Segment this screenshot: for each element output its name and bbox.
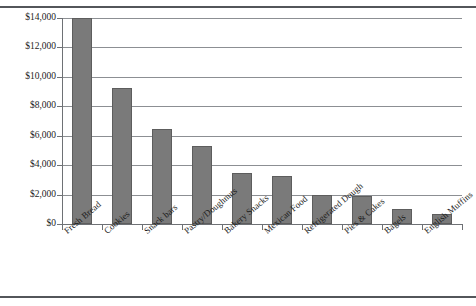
- bar-chart-figure: $0$2,000$4,000$6,000$8,000$10,000$12,000…: [0, 0, 476, 306]
- top-divider-rule: [0, 6, 476, 8]
- x-axis-tick-mark: [102, 225, 103, 230]
- y-axis-tick-mark: [57, 18, 63, 19]
- x-axis-tick-mark: [182, 225, 183, 230]
- bar: [192, 146, 213, 224]
- x-axis-tick-mark: [222, 225, 223, 230]
- bar: [392, 209, 413, 224]
- y-axis-tick-label: $10,000: [25, 72, 56, 82]
- bar: [312, 195, 333, 224]
- bar: [232, 173, 253, 225]
- x-axis-tick-mark: [382, 225, 383, 230]
- x-axis-tick-mark: [62, 225, 63, 230]
- y-axis-tick-label: $2,000: [30, 190, 56, 200]
- bottom-divider-rule: [0, 296, 476, 298]
- bar: [352, 196, 373, 224]
- y-axis-tick-mark: [57, 195, 63, 196]
- x-axis-tick-mark: [302, 225, 303, 230]
- bar: [272, 176, 293, 224]
- y-axis-tick-label: $4,000: [30, 160, 56, 170]
- y-axis-tick-label: $0: [47, 219, 57, 229]
- bar: [112, 88, 133, 224]
- bar: [72, 18, 93, 224]
- x-axis-tick-mark: [342, 225, 343, 230]
- bar: [152, 129, 173, 224]
- y-axis-tick-mark: [57, 77, 63, 78]
- bar: [432, 214, 453, 224]
- x-axis-tick-mark: [462, 225, 463, 230]
- x-axis-tick-mark: [142, 225, 143, 230]
- y-axis-tick-label: $12,000: [25, 42, 56, 52]
- y-axis-tick-label: $8,000: [30, 101, 56, 111]
- y-axis-tick-label: $14,000: [25, 13, 56, 23]
- x-axis-tick-mark: [262, 225, 263, 230]
- y-axis-tick-label: $6,000: [30, 131, 56, 141]
- bar-series: [62, 18, 463, 224]
- y-axis-tick-mark: [57, 136, 63, 137]
- y-axis-tick-labels: $0$2,000$4,000$6,000$8,000$10,000$12,000…: [0, 0, 56, 306]
- y-axis-tick-mark: [57, 106, 63, 107]
- y-axis-tick-mark: [57, 47, 63, 48]
- x-axis-tick-mark: [422, 225, 423, 230]
- y-axis-tick-mark: [57, 165, 63, 166]
